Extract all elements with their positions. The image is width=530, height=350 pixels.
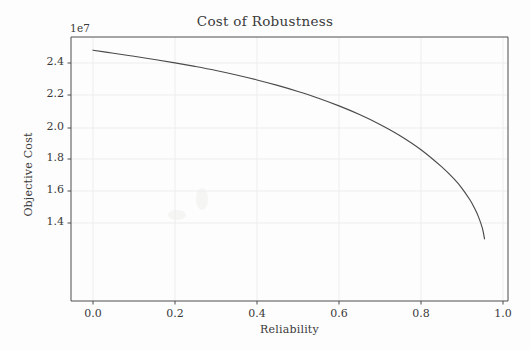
- tick-marks: [68, 63, 504, 305]
- x-tick-label: 0.6: [316, 307, 362, 320]
- y-tick-label: 2.4: [18, 55, 64, 68]
- y-tick-label: 2.0: [18, 120, 64, 133]
- x-tick-label: 0.2: [152, 307, 198, 320]
- matplotlib-figure: Cost of Robustness 1e7 Objective Cost Re…: [0, 0, 530, 350]
- screenshot-root: Cost of Robustness 1e7 Objective Cost Re…: [0, 0, 530, 350]
- x-tick-label: 0.0: [70, 307, 116, 320]
- gridlines: [71, 37, 508, 301]
- axis-spines: [71, 37, 508, 301]
- y-tick-label: 1.8: [18, 151, 64, 164]
- x-tick-label: 0.4: [234, 307, 280, 320]
- y-tick-label: 1.6: [18, 183, 64, 196]
- plot-area: [0, 0, 530, 350]
- data-line-series: [93, 50, 485, 239]
- y-tick-label: 1.4: [18, 215, 64, 228]
- x-tick-label: 0.8: [398, 307, 444, 320]
- x-tick-label: 1.0: [480, 307, 526, 320]
- y-tick-label: 2.2: [18, 87, 64, 100]
